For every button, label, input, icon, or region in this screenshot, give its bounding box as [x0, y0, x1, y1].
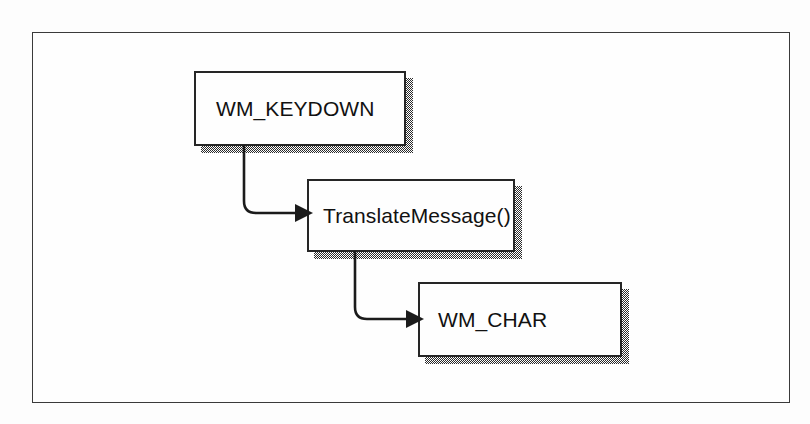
arrowhead-right-translate-to-char	[406, 310, 424, 328]
figure-screenshot: WM_KEYDOWN TranslateMessage() WM_CHAR	[0, 0, 810, 424]
edge-path-translate-to-char	[355, 251, 406, 319]
edge-translate-to-char	[33, 33, 791, 404]
figure-frame: WM_KEYDOWN TranslateMessage() WM_CHAR	[32, 32, 790, 403]
